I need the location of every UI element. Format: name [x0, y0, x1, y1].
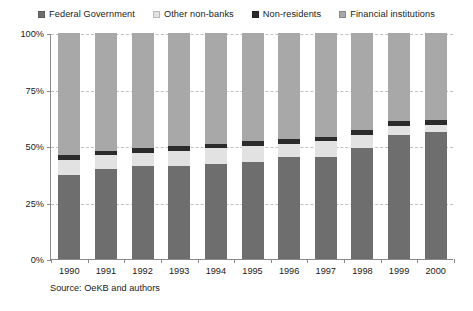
bar-segment-other-non-banks[interactable]	[95, 155, 117, 169]
x-axis-label: 1990	[59, 266, 79, 276]
y-axis-label: 75%	[26, 86, 44, 96]
bar-segment-other-non-banks[interactable]	[278, 144, 300, 158]
bar-segment-non-residents[interactable]	[278, 139, 300, 144]
legend-item-federal-government[interactable]: Federal Government	[38, 10, 135, 19]
bar-segment-non-residents[interactable]	[315, 137, 337, 142]
legend-swatch-icon	[339, 11, 346, 18]
x-axis-tick	[271, 259, 272, 263]
bar-segment-financial-institutions[interactable]	[388, 33, 410, 121]
legend-item-label: Non-residents	[263, 10, 321, 19]
bar-segment-other-non-banks[interactable]	[132, 153, 154, 167]
plot-area: 0%25%50%75%100%1990199119921993199419951…	[50, 34, 453, 260]
bar-1993[interactable]	[168, 33, 190, 259]
bar-segment-financial-institutions[interactable]	[132, 33, 154, 148]
bar-segment-financial-institutions[interactable]	[315, 33, 337, 137]
bar-1995[interactable]	[242, 33, 264, 259]
bar-segment-non-residents[interactable]	[58, 155, 80, 160]
bar-1997[interactable]	[315, 33, 337, 259]
y-axis-tick	[47, 147, 51, 148]
legend-swatch-icon	[38, 11, 45, 18]
x-axis-tick	[344, 259, 345, 263]
bar-segment-non-residents[interactable]	[425, 120, 447, 125]
x-axis-label: 1993	[169, 266, 189, 276]
bar-segment-financial-institutions[interactable]	[168, 33, 190, 146]
bar-segment-federal-government[interactable]	[242, 162, 264, 259]
x-axis-tick	[417, 259, 418, 263]
bar-1990[interactable]	[58, 33, 80, 259]
x-axis-tick	[124, 259, 125, 263]
x-axis-label: 2000	[425, 266, 445, 276]
bar-1998[interactable]	[351, 33, 373, 259]
x-axis-label: 1991	[96, 266, 116, 276]
legend-item-other-non-banks[interactable]: Other non-banks	[153, 10, 234, 19]
bar-segment-federal-government[interactable]	[388, 135, 410, 259]
bar-2000[interactable]	[425, 33, 447, 259]
x-axis-label: 1992	[132, 266, 152, 276]
bar-segment-financial-institutions[interactable]	[242, 33, 264, 141]
bar-segment-federal-government[interactable]	[168, 166, 190, 259]
y-axis-tick	[47, 204, 51, 205]
y-axis-label: 0%	[31, 255, 44, 265]
x-axis-tick	[88, 259, 89, 263]
x-axis-label: 1997	[316, 266, 336, 276]
bar-segment-financial-institutions[interactable]	[351, 33, 373, 130]
bar-1996[interactable]	[278, 33, 300, 259]
legend-item-label: Financial institutions	[350, 10, 435, 19]
bar-segment-federal-government[interactable]	[278, 157, 300, 259]
bar-1991[interactable]	[95, 33, 117, 259]
bar-segment-other-non-banks[interactable]	[205, 148, 227, 164]
bar-segment-financial-institutions[interactable]	[205, 33, 227, 144]
bar-segment-federal-government[interactable]	[315, 157, 337, 259]
bar-segment-other-non-banks[interactable]	[168, 151, 190, 167]
bar-segment-other-non-banks[interactable]	[315, 141, 337, 157]
y-axis-label: 100%	[21, 29, 45, 39]
x-axis-label: 1994	[206, 266, 226, 276]
x-axis-tick	[198, 259, 199, 263]
bar-segment-other-non-banks[interactable]	[242, 146, 264, 162]
x-axis-label: 1999	[389, 266, 409, 276]
bar-segment-other-non-banks[interactable]	[58, 160, 80, 176]
x-axis-label: 1996	[279, 266, 299, 276]
bar-segment-other-non-banks[interactable]	[425, 125, 447, 133]
bar-segment-non-residents[interactable]	[132, 148, 154, 153]
bar-1994[interactable]	[205, 33, 227, 259]
bar-segment-federal-government[interactable]	[205, 164, 227, 259]
chart-source-note: Source: OeKB and authors	[50, 283, 160, 293]
bar-segment-federal-government[interactable]	[132, 166, 154, 259]
x-axis-tick	[51, 259, 52, 263]
bar-segment-financial-institutions[interactable]	[58, 33, 80, 155]
y-axis-label: 25%	[26, 199, 44, 209]
bar-segment-non-residents[interactable]	[205, 144, 227, 149]
legend-item-non-residents[interactable]: Non-residents	[252, 10, 321, 19]
bar-segment-non-residents[interactable]	[95, 151, 117, 156]
x-axis-label: 1995	[242, 266, 262, 276]
bar-1992[interactable]	[132, 33, 154, 259]
bar-1999[interactable]	[388, 33, 410, 259]
legend-swatch-icon	[252, 11, 259, 18]
bar-segment-financial-institutions[interactable]	[278, 33, 300, 139]
bar-segment-federal-government[interactable]	[425, 132, 447, 259]
bar-segment-other-non-banks[interactable]	[351, 135, 373, 149]
x-axis-tick	[307, 259, 308, 263]
x-axis-tick	[161, 259, 162, 263]
y-axis-tick	[47, 34, 51, 35]
bar-segment-federal-government[interactable]	[95, 169, 117, 259]
bar-segment-non-residents[interactable]	[242, 141, 264, 146]
x-axis-tick	[454, 259, 455, 263]
chart-legend: Federal GovernmentOther non-banksNon-res…	[0, 10, 473, 19]
bar-segment-non-residents[interactable]	[388, 121, 410, 126]
y-axis-tick	[47, 91, 51, 92]
legend-swatch-icon	[153, 11, 160, 18]
legend-item-financial-institutions[interactable]: Financial institutions	[339, 10, 435, 19]
bar-segment-financial-institutions[interactable]	[425, 33, 447, 120]
bar-segment-non-residents[interactable]	[168, 146, 190, 151]
bar-segment-federal-government[interactable]	[58, 175, 80, 259]
x-axis-label: 1998	[352, 266, 372, 276]
legend-item-label: Other non-banks	[164, 10, 234, 19]
bar-segment-federal-government[interactable]	[351, 148, 373, 259]
bar-segment-financial-institutions[interactable]	[95, 33, 117, 151]
chart-container: Federal GovernmentOther non-banksNon-res…	[0, 0, 473, 311]
bar-segment-other-non-banks[interactable]	[388, 126, 410, 135]
legend-item-label: Federal Government	[49, 10, 135, 19]
bar-segment-non-residents[interactable]	[351, 130, 373, 135]
